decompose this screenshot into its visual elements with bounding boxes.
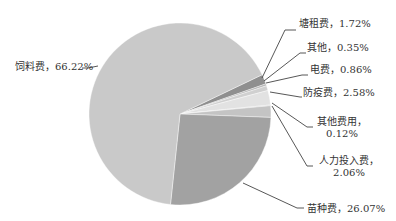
label-feed: 饲料费，66.22%	[15, 61, 93, 73]
label-labor-value: 2.06%	[314, 167, 384, 179]
pie-slice-7	[170, 114, 270, 205]
label-electricity: 电费，0.86%	[310, 64, 372, 76]
label-other: 其他，0.35%	[307, 42, 369, 54]
label-pond-rent: 塘租费，1.72%	[299, 18, 371, 30]
pie-chart	[0, 0, 396, 221]
label-seed: 苗种费，26.07%	[307, 203, 385, 215]
label-epidemic-prevention: 防疫费，2.58%	[303, 87, 375, 99]
label-labor: 人力投入费， 2.06%	[314, 155, 384, 179]
label-other-costs-value: 0.12%	[314, 128, 370, 140]
label-other-costs-name: 其他费用，	[314, 116, 370, 128]
label-labor-name: 人力投入费，	[314, 155, 384, 167]
pie-slices	[89, 23, 271, 205]
label-other-costs: 其他费用， 0.12%	[314, 116, 370, 140]
